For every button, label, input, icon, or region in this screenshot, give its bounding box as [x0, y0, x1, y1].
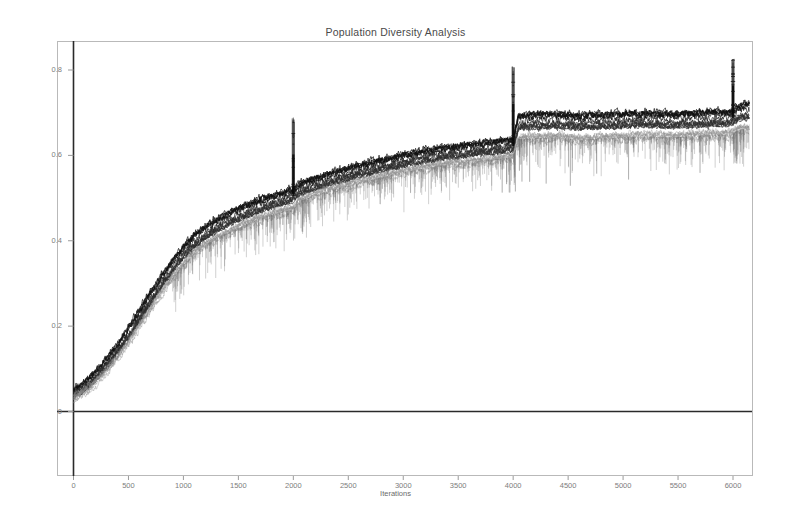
data-series-layer — [74, 100, 750, 403]
chart-figure: Population Diversity Analysis 00.20.40.6… — [0, 0, 791, 523]
y-tick-label: 0 — [36, 407, 62, 416]
plot-frame — [58, 42, 753, 476]
y-tick-label: 0.2 — [36, 321, 62, 330]
x-axis-title: Iterations — [0, 489, 791, 498]
y-tick-label: 0.4 — [36, 236, 62, 245]
axis-lines — [57, 41, 752, 476]
x-tick-marks — [74, 476, 734, 480]
y-tick-marks — [68, 70, 74, 412]
plot-canvas — [0, 0, 791, 523]
y-tick-label: 0.6 — [36, 150, 62, 159]
y-tick-label: 0.8 — [36, 65, 62, 74]
